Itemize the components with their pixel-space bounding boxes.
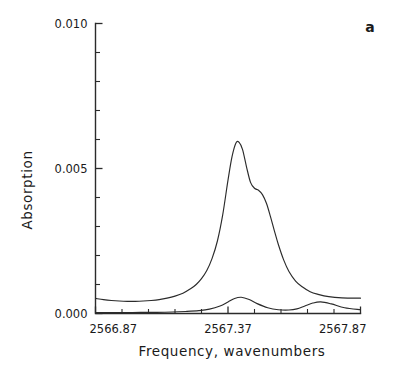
data-series-group	[96, 141, 361, 312]
axis-spines	[96, 24, 361, 314]
y-tick-label: 0.000	[55, 307, 88, 321]
x-tick-label: 2566.87	[90, 322, 138, 336]
y-axis-tick-labels: 0.0000.0050.010	[55, 17, 88, 321]
x-tick-label: 2567.37	[204, 322, 252, 336]
x-axis-title: Frequency, wavenumbers	[139, 343, 326, 359]
curve-absorption-trace	[96, 141, 361, 301]
x-tick-label: 2567.87	[319, 322, 367, 336]
y-tick-label: 0.005	[55, 162, 88, 176]
plot-canvas: 0.0000.0050.010 2566.872567.372567.87 Ab…	[0, 0, 406, 379]
panel-label: a	[365, 19, 374, 35]
y-tick-label: 0.010	[55, 17, 88, 31]
y-axis-ticks	[96, 24, 103, 314]
absorption-spectrum-figure: 0.0000.0050.010 2566.872567.372567.87 Ab…	[0, 0, 406, 379]
x-axis-tick-labels: 2566.872567.372567.87	[90, 322, 367, 336]
y-axis-title: Absorption	[19, 150, 35, 229]
